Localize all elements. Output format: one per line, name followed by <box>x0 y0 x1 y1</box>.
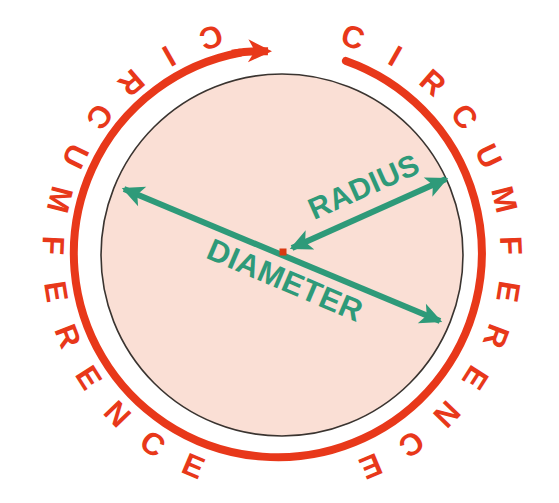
circumference-left-letter: M <box>40 183 80 217</box>
circumference-right-letter: C <box>337 17 369 57</box>
circumference-left-letter: E <box>37 279 75 305</box>
circumference-right-letter: I <box>383 39 408 74</box>
circumference-left-letter: C <box>195 17 227 57</box>
circumference-left-letter: U <box>55 138 96 173</box>
circumference-right-letter: C <box>444 97 485 136</box>
circumference-left-letter: F <box>35 235 71 255</box>
circle-parts-diagram: RADIUS DIAMETER CIRCUMFERENCE CIRCUMFERE… <box>0 0 559 503</box>
circumference-right-letter: E <box>354 446 387 486</box>
circumference-right-letter: E <box>489 279 527 305</box>
circumference-right-letter: F <box>493 235 529 255</box>
circumference-right-letter: M <box>484 183 524 217</box>
circumference-right-letter: U <box>468 138 509 173</box>
circumference-right-letter: E <box>455 360 496 396</box>
circumference-right-letter: R <box>413 62 453 103</box>
center-point <box>280 249 287 256</box>
circle-diagram-canvas: RADIUS DIAMETER CIRCUMFERENCE CIRCUMFERE… <box>0 0 559 503</box>
clockwise-direction-arrow <box>232 51 268 53</box>
circumference-left-letter: I <box>157 39 182 74</box>
circumference-right-letter: N <box>426 394 467 434</box>
circumference-left-letter: R <box>48 320 89 353</box>
circumference-left-letter: E <box>177 446 210 486</box>
circumference-left-letter: C <box>133 423 171 465</box>
circumference-right-letter: C <box>392 423 430 465</box>
circumference-right-letter: R <box>476 320 517 353</box>
